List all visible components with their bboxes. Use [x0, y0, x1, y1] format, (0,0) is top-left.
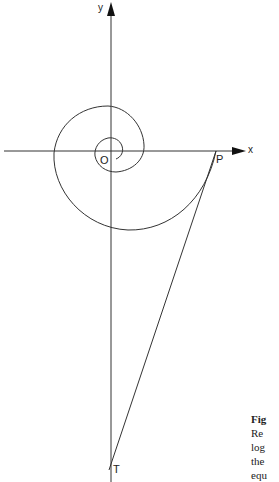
x-axis-arrow-icon — [232, 147, 246, 155]
point-t-label: T — [113, 463, 120, 475]
caption-line-2: log — [251, 440, 265, 454]
y-axis-arrow-icon — [107, 2, 115, 16]
tangent-line-pt — [109, 151, 216, 470]
log-spiral-curve — [54, 106, 216, 230]
point-p-label: P — [216, 153, 223, 165]
x-axis-label: x — [248, 144, 253, 155]
caption-line-3: the — [251, 454, 264, 468]
caption-line-1: Re — [251, 426, 263, 440]
spiral-diagram — [0, 0, 279, 482]
caption-figure-heading: Fig — [251, 412, 266, 426]
caption-line-4: equ — [251, 468, 267, 482]
y-axis-label: y — [98, 2, 103, 13]
origin-label: O — [100, 154, 109, 166]
